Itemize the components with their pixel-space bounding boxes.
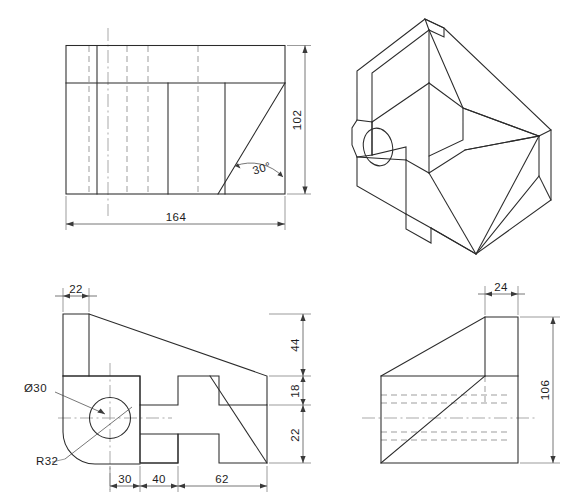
drawing-sheet: 164 102 30° 22 44 18 22 30 40 62 Ø30 R32…	[0, 0, 583, 500]
top-view-geometry: 164 102 30° 22 44 18 22 30 40 62 Ø30 R32…	[0, 0, 583, 500]
iso-notch-edge-3	[357, 157, 406, 160]
dimension-text-22-top: 22	[69, 283, 83, 295]
isometric-view-geometry	[352, 19, 551, 254]
arrowhead-102-bottom	[302, 187, 307, 195]
arrowhead-44-bottom	[300, 369, 305, 376]
iso-wedge-edge-2	[539, 130, 551, 136]
arrowhead-24-left	[485, 292, 492, 297]
top-view-outline	[66, 46, 285, 195]
arrowhead-102-top	[302, 46, 307, 54]
arrowhead-30-right	[133, 484, 140, 489]
iso-inner-edge-6	[463, 108, 539, 136]
iso-inner-edge-3	[429, 30, 539, 136]
dimension-text-164: 164	[166, 211, 187, 223]
iso-face-edge-1	[357, 120, 372, 122]
arrowhead-22right-top	[300, 405, 305, 412]
front-view-fillet	[63, 376, 140, 464]
top-view-inclined-edge	[218, 83, 285, 194]
side-view-inclined-edge	[381, 376, 485, 463]
arrowhead-164-right	[278, 221, 286, 226]
iso-face-edge-2	[357, 155, 372, 157]
leader-r32	[65, 407, 132, 459]
iso-outline	[352, 19, 551, 254]
arrowhead-24-right	[511, 292, 518, 297]
side-view-outline	[381, 317, 518, 463]
dimension-text-40: 40	[152, 473, 166, 485]
arrowhead-106-top	[550, 317, 555, 324]
arrowhead-22top-right	[82, 294, 89, 299]
dimension-text-30: 30	[118, 473, 132, 485]
front-view-left-lower	[63, 376, 178, 463]
arrowhead-22right-bottom	[300, 456, 305, 463]
iso-through-hole	[360, 125, 396, 168]
arrowhead-18-top	[300, 376, 305, 382]
iso-inner-edge-1	[372, 30, 429, 122]
iso-wedge	[429, 136, 539, 254]
iso-wedge-edge-1	[465, 136, 539, 150]
dimension-text-30deg: 30°	[251, 160, 272, 177]
iso-wedge-edge-3	[476, 136, 539, 254]
arrowhead-40-right	[171, 484, 178, 489]
arrowhead-62-right	[260, 484, 267, 489]
dimension-text-106: 106	[539, 380, 551, 400]
iso-top-tab	[425, 19, 444, 37]
dimension-text-18: 18	[289, 384, 301, 398]
dimension-text-22-bottom: 22	[289, 428, 301, 442]
dimension-text-44: 44	[289, 338, 301, 352]
arrowhead-62-left	[178, 484, 185, 489]
arrowhead-30-left	[110, 484, 117, 489]
annotation-text-r32: R32	[36, 455, 58, 467]
arrowhead-dia30	[97, 408, 105, 414]
arrowhead-40-left	[140, 484, 147, 489]
side-view-geometry	[362, 286, 560, 463]
dimension-text-62: 62	[215, 473, 229, 485]
dimension-text-24: 24	[494, 281, 508, 293]
iso-wedge-edge-4	[539, 176, 551, 200]
arrowhead-18-bottom	[300, 399, 305, 405]
arrowhead-164-left	[66, 221, 74, 226]
dimension-text-102: 102	[291, 110, 303, 130]
arrowhead-106-bottom	[550, 456, 555, 463]
front-view-upper-profile	[63, 314, 267, 405]
annotation-text-dia30: Ø30	[24, 382, 47, 394]
iso-wedge-edge-5	[429, 173, 476, 254]
front-view-geometry	[52, 288, 311, 492]
arrowhead-44-top	[300, 314, 305, 321]
iso-notch-edge-1	[406, 214, 431, 228]
angle-arrowhead-right	[277, 171, 283, 177]
